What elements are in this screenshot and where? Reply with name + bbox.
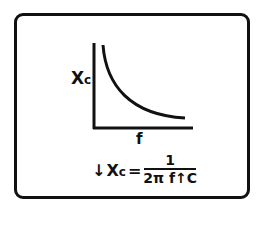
formula-lhs: Xc <box>106 161 125 180</box>
formula-lhs-sub: c <box>119 165 126 179</box>
equals-sign: = <box>128 161 141 180</box>
inverse-curve <box>103 45 185 118</box>
reactance-formula: ↓ Xc = 1 2π f↑C <box>92 150 197 190</box>
formula-lhs-main: X <box>106 161 118 180</box>
down-arrow-icon: ↓ <box>92 161 105 180</box>
fraction: 1 2π f↑C <box>143 153 197 187</box>
y-label-sub: c <box>84 73 91 87</box>
y-label-main: X <box>71 68 84 88</box>
denominator: 2π f↑C <box>143 170 197 187</box>
x-axis-label: f <box>136 130 143 148</box>
numerator: 1 <box>165 153 175 168</box>
y-axis-label: Xc <box>71 68 91 88</box>
